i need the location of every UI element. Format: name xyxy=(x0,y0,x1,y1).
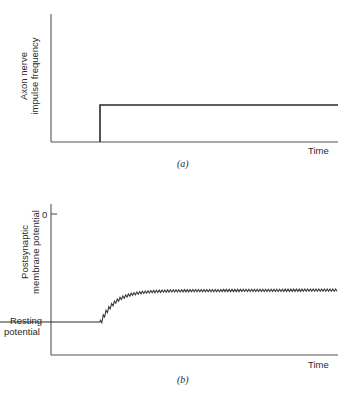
panel-b-y-label-line1: Postsynaptic xyxy=(19,225,30,279)
panel-b-y-label-line2: membrane potential xyxy=(30,210,41,294)
postsynaptic-potential-trace xyxy=(100,289,337,323)
figure: Axon nerve impulse frequency Time (a) 0 … xyxy=(0,0,354,396)
panel-a-x-label: Time xyxy=(308,145,329,156)
panel-b-caption: (b) xyxy=(177,374,189,386)
panel-a-y-label: Axon nerve impulse frequency xyxy=(18,37,40,114)
panel-a-caption: (a) xyxy=(177,158,189,170)
panel-a-step-trace xyxy=(100,105,338,142)
resting-label-line2: potential xyxy=(4,326,40,337)
panel-b-zero-label: 0 xyxy=(42,209,47,220)
panel-a-y-label-line1: Axon nerve xyxy=(18,52,29,100)
panel-a-y-label-line2: impulse frequency xyxy=(29,37,40,114)
panel-b: 0 Postsynaptic membrane potential Restin… xyxy=(0,204,338,386)
panel-b-x-label: Time xyxy=(308,359,329,370)
resting-label-line1: Resting xyxy=(10,315,42,326)
panel-b-y-label: Postsynaptic membrane potential xyxy=(19,210,41,294)
panel-a: Axon nerve impulse frequency Time (a) xyxy=(18,14,338,170)
